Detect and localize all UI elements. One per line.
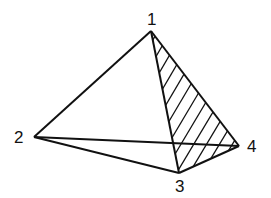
tetrahedron-diagram: 1 2 3 4 — [0, 0, 271, 198]
edge-1-4 — [151, 31, 239, 146]
tetrahedron-drawing — [0, 0, 271, 198]
hatched-face-1-3-4 — [130, 10, 271, 198]
vertex-label-3: 3 — [175, 178, 184, 195]
edge-1-3 — [151, 31, 179, 173]
vertex-label-2: 2 — [14, 129, 23, 146]
edge-3-4 — [179, 146, 239, 173]
vertex-label-1: 1 — [147, 11, 156, 28]
edges — [34, 31, 239, 173]
edge-1-2 — [34, 31, 151, 137]
vertex-label-4: 4 — [247, 138, 256, 155]
